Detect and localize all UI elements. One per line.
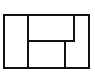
outer-top-border [3,14,90,16]
outer-left-border [3,14,5,69]
outer-bottom-border [3,67,90,69]
middle-horizontal-divider [27,40,75,42]
outer-right-border [88,14,90,69]
upper-right-divider [73,14,75,42]
lower-right-divider [64,40,66,69]
